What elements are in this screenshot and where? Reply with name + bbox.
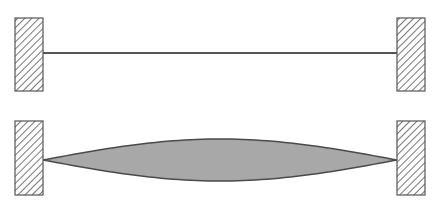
right-fixed-wall [397,18,425,91]
string-vibration-diagram [0,0,441,218]
panel-string-at-rest [15,18,425,91]
panel-string-vibrating [15,121,425,195]
vibration-envelope [43,139,397,181]
left-fixed-wall [15,18,43,91]
right-fixed-wall [397,121,425,195]
diagram-canvas [0,0,441,218]
left-fixed-wall [15,121,43,195]
